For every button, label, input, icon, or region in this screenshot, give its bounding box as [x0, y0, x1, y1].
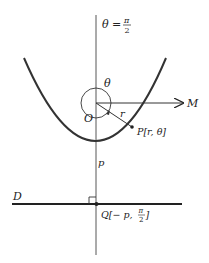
- point-q-label: Q[− p,: [101, 209, 133, 220]
- point-p-label: P[r, θ]: [136, 126, 166, 137]
- parabola-diagram: θ = π 2 θ O M r P[r, θ] p D Q[− p, π 2 ]: [0, 0, 209, 263]
- point-p-dot: [130, 125, 134, 129]
- point-q-numerator: π: [138, 207, 144, 215]
- angle-theta-label: θ: [104, 77, 111, 90]
- point-q-dot: [95, 202, 99, 206]
- origin-label: O: [84, 112, 93, 125]
- ray-end-label: M: [186, 97, 199, 110]
- radius-line: [96, 103, 132, 127]
- axis-angle-denominator: 2: [125, 26, 130, 35]
- axis-angle-numerator: π: [123, 16, 130, 25]
- directrix-label: D: [12, 190, 22, 203]
- axis-angle-label: θ =: [102, 18, 121, 31]
- point-q-denominator: 2: [139, 216, 143, 224]
- point-q-close-bracket: ]: [145, 209, 150, 220]
- distance-p-label: p: [98, 157, 105, 168]
- radius-label: r: [120, 108, 126, 119]
